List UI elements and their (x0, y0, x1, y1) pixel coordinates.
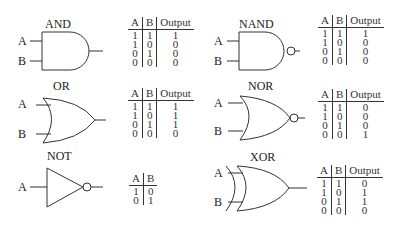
gate-title-nor: NOR (248, 79, 273, 94)
header-output: Output (157, 17, 194, 30)
input-label-a: A (214, 96, 223, 111)
table-row: 000 (317, 206, 383, 215)
header-output: Output (347, 89, 384, 102)
table-row: 01 (129, 196, 157, 205)
gate-title-and: AND (45, 17, 71, 32)
not-gate-symbol (30, 168, 103, 207)
header-b: B (332, 89, 346, 102)
header-b: B (143, 173, 157, 186)
input-label-a: A (214, 166, 223, 181)
input-label-b: B (214, 195, 222, 210)
input-label-a: A (18, 34, 27, 49)
header-a: A (318, 89, 332, 102)
input-label-a: A (18, 180, 27, 195)
input-label-a: A (214, 34, 223, 49)
input-label-b: B (214, 54, 222, 69)
nor-gate-symbol (228, 96, 305, 140)
input-label-b: B (214, 124, 222, 139)
header-b: B (142, 88, 156, 101)
gate-title-xor: XOR (250, 150, 275, 165)
header-a: A (318, 15, 332, 28)
input-label-a: A (18, 97, 27, 112)
table-row: 110 (317, 178, 383, 189)
table-row: 000 (128, 129, 194, 138)
gate-title-nand: NAND (239, 17, 274, 32)
table-row: 111 (318, 28, 384, 39)
gate-title-or: OR (53, 79, 70, 94)
table-row: 110 (318, 102, 384, 113)
truth-table-xor: ABOutput 110 101 011 000 (317, 165, 383, 215)
or-gate-symbol (36, 98, 106, 143)
table-row: 111 (128, 30, 194, 41)
header-b: B (331, 165, 345, 178)
header-output: Output (346, 165, 383, 178)
table-row: 000 (128, 58, 194, 67)
truth-table-not: AB 10 01 (129, 173, 157, 205)
gate-title-not: NOT (47, 149, 72, 164)
header-output: Output (347, 15, 384, 28)
and-gate-symbol (30, 32, 103, 70)
header-a: A (317, 165, 331, 178)
header-a: A (128, 17, 142, 30)
truth-table-or: ABOutput 111 101 011 000 (128, 88, 194, 138)
xor-gate-symbol (226, 166, 307, 211)
header-output: Output (157, 88, 194, 101)
header-b: B (332, 15, 346, 28)
truth-table-nor: ABOutput 110 100 010 001 (318, 89, 384, 139)
input-label-b: B (18, 127, 26, 142)
truth-table-and: ABOutput 111 100 010 000 (128, 17, 194, 67)
header-a: A (129, 173, 143, 186)
table-row: 111 (128, 101, 194, 112)
header-a: A (128, 88, 142, 101)
header-b: B (142, 17, 156, 30)
nand-gate-symbol (227, 32, 300, 70)
table-row: 000 (318, 56, 384, 65)
table-row: 001 (318, 130, 384, 139)
truth-table-nand: ABOutput 111 100 010 000 (318, 15, 384, 65)
input-label-b: B (18, 54, 26, 69)
